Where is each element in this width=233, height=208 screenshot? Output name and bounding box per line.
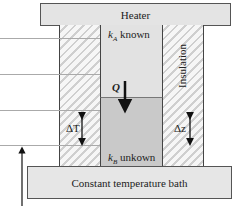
arrows-layer (0, 0, 233, 208)
